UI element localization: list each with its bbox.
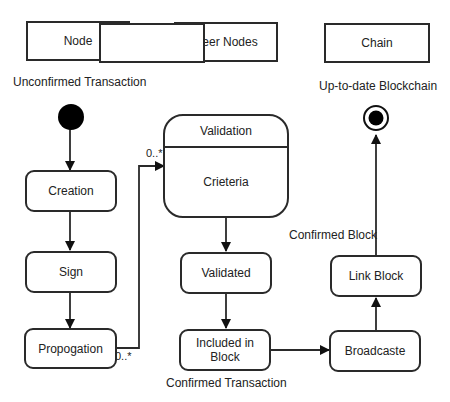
lane-node-label: Node <box>64 34 93 48</box>
lane-chain-label: Chain <box>361 36 392 50</box>
state-validation-body: Crieteria <box>165 148 287 216</box>
state-included-in-block[interactable]: Included in Block <box>179 329 271 371</box>
final-node-inner-icon <box>369 111 384 126</box>
state-broadcaste-label: Broadcaste <box>345 344 406 358</box>
state-validated[interactable]: Validated <box>180 252 272 294</box>
arrow-propogation-to-validation <box>116 166 164 348</box>
confirmed-block-label: Confirmed Block <box>289 228 377 242</box>
state-included-label-line2: Block <box>210 350 239 364</box>
lane-chain: Chain <box>324 23 430 63</box>
state-link-block[interactable]: Link Block <box>330 255 422 297</box>
multiplicity-source-label: 0..* <box>115 350 132 362</box>
state-sign-label: Sign <box>59 265 83 279</box>
state-creation[interactable]: Creation <box>25 170 117 212</box>
state-broadcaste[interactable]: Broadcaste <box>329 330 421 372</box>
state-sign[interactable]: Sign <box>25 251 117 293</box>
state-propogation[interactable]: Propogation <box>24 328 117 369</box>
end-label: Up-to-date Blockchain <box>319 79 437 93</box>
state-validation[interactable]: Validation Crieteria <box>163 114 289 218</box>
state-validated-label: Validated <box>201 266 250 280</box>
lane-chain-placeholder <box>99 23 205 63</box>
multiplicity-target-label: 0..* <box>146 147 163 159</box>
state-included-label-line1: Included in <box>196 336 254 350</box>
state-validation-title: Validation <box>165 116 287 148</box>
initial-node-icon <box>58 104 84 130</box>
state-creation-label: Creation <box>48 184 93 198</box>
start-label: Unconfirmed Transaction <box>13 75 146 89</box>
state-propogation-label: Propogation <box>38 342 103 356</box>
state-link-block-label: Link Block <box>349 269 404 283</box>
confirmed-transaction-label: Confirmed Transaction <box>166 376 287 390</box>
